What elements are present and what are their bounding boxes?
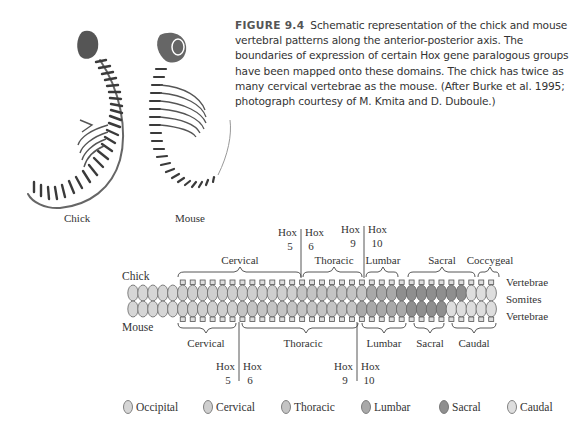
mouse-somite-caudal: [446, 301, 456, 317]
chick-somite-sacral: [456, 285, 466, 301]
chick-region-coccygeal: Coccygeal: [467, 254, 513, 266]
legend-label-sacral: Sacral: [452, 401, 481, 413]
chick-somite-cervical: [237, 285, 247, 301]
chick-somite-sacral: [446, 285, 456, 301]
chick-hox6-label: Hox: [305, 226, 324, 238]
vertebra: [190, 317, 195, 322]
legend-swatch-thoracic: [282, 401, 291, 414]
vertebra: [459, 317, 464, 322]
vertebra: [310, 317, 315, 322]
mouse-region-thoracic: Thoracic: [283, 337, 322, 349]
chick-somite-sacral: [426, 285, 436, 301]
vertebra: [190, 280, 195, 285]
mouse-vertebrae-row: [180, 317, 493, 322]
chick-region-lumbar: Lumbar: [366, 254, 401, 266]
chick-somite-thoracic: [297, 285, 307, 301]
vertebra: [379, 280, 384, 285]
legend-label-thoracic: Thoracic: [294, 401, 335, 413]
chick-somite-cervical: [207, 285, 217, 301]
chick-somite-occipital: [128, 285, 138, 301]
chick-hox9-label: Hox: [341, 223, 360, 235]
vertebra: [359, 280, 364, 285]
legend: OccipitalCervicalThoracicLumbarSacralCau…: [124, 401, 553, 415]
mouse-somite-thoracic: [347, 301, 357, 317]
vertebra: [449, 280, 454, 285]
vertebra: [230, 317, 235, 322]
mouse-region-caudal: Caudal: [458, 337, 489, 349]
vertebra: [479, 280, 484, 285]
vertebra: [310, 280, 315, 285]
mouse-somite-sacral: [416, 301, 426, 317]
mouse-somite-occipital: [128, 301, 138, 317]
chick-region-sacral: Sacral: [428, 254, 455, 266]
mouse-hox5-label: Hox: [216, 360, 235, 372]
mouse-somite-lumbar: [396, 301, 406, 317]
mouse-somite-thoracic: [337, 301, 347, 317]
chick-somite-sacral: [406, 285, 416, 301]
mouse-hox6-num: 6: [247, 374, 253, 386]
mouse-somite-lumbar: [387, 301, 397, 317]
chick-somite-caudal: [476, 285, 486, 301]
chick-somite-caudal: [486, 285, 496, 301]
mouse-cervical-brace: [178, 323, 236, 333]
vertebra: [459, 280, 464, 285]
chick-somite-sacral: [416, 285, 426, 301]
vertebra: [300, 280, 305, 285]
chick-somite-cervical: [178, 285, 188, 301]
chick-somite-lumbar: [377, 285, 387, 301]
mouse-region-lumbar: Lumbar: [367, 337, 402, 349]
mouse-somite-caudal: [486, 301, 496, 317]
chick-cervical-brace: [178, 267, 301, 277]
legend-swatch-sacral: [440, 401, 449, 414]
chick-somite-cervical: [267, 285, 277, 301]
mouse-somite-lumbar: [377, 301, 387, 317]
chick-hox9-num: 9: [350, 237, 356, 249]
vertebra: [290, 317, 295, 322]
chick-sacral-brace: [408, 267, 475, 277]
mouse-hox9-num: 9: [342, 374, 348, 386]
mouse-lumbar-brace: [362, 323, 406, 333]
mouse-somite-cervical: [227, 301, 237, 317]
vertebra: [379, 317, 384, 322]
vertebra: [320, 317, 325, 322]
mouse-region-sacral: Sacral: [416, 337, 443, 349]
vertebra: [469, 280, 474, 285]
vertebra: [439, 317, 444, 322]
vertebra: [419, 280, 424, 285]
legend-swatch-occipital: [124, 401, 133, 414]
mouse-somite-caudal: [476, 301, 486, 317]
vertebra: [250, 280, 255, 285]
chick-thoracic-brace: [303, 267, 362, 277]
vertebra: [399, 317, 404, 322]
mouse-sacral-brace: [414, 323, 444, 333]
vertebra: [280, 280, 285, 285]
vertebra: [200, 317, 205, 322]
vertebra: [330, 317, 335, 322]
somites-label: Somites: [506, 293, 541, 305]
mouse-somite-cervical: [188, 301, 198, 317]
mouse-somite-thoracic: [327, 301, 337, 317]
vertebra: [230, 280, 235, 285]
vertebra: [270, 280, 275, 285]
mouse-somite-thoracic: [287, 301, 297, 317]
mouse-row-label: Mouse: [122, 321, 153, 333]
vertebra: [210, 280, 215, 285]
chick-hox6-num: 6: [308, 240, 314, 252]
mouse-somite-cervical: [178, 301, 188, 317]
mouse-somite-thoracic: [277, 301, 287, 317]
legend-label-lumbar: Lumbar: [374, 401, 411, 413]
chick-somite-cervical: [277, 285, 287, 301]
mouse-region-cervical: Cervical: [187, 337, 224, 349]
chick-somite-thoracic: [327, 285, 337, 301]
chick-somite-sacral: [396, 285, 406, 301]
chick-somite-cervical: [197, 285, 207, 301]
vertebrae-bottom-label: Vertebrae: [506, 310, 548, 322]
vertebra: [479, 317, 484, 322]
vertebra: [469, 317, 474, 322]
vertebra: [200, 280, 205, 285]
mouse-hox5-num: 5: [225, 374, 231, 386]
chick-somite-lumbar: [367, 285, 377, 301]
vertebra: [250, 317, 255, 322]
vertebra: [220, 280, 225, 285]
mouse-hox9-label: Hox: [334, 360, 353, 372]
